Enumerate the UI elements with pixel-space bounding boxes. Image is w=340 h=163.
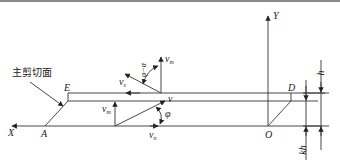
shear-plane-DO: [268, 93, 291, 126]
point-E-label: E: [64, 83, 70, 93]
phi-arc: [156, 107, 161, 124]
point-O-label: O: [265, 130, 272, 140]
y-axis-label: Y: [273, 11, 279, 21]
shear-plane-label: 主剪切面: [12, 68, 52, 78]
vn-label: vn: [149, 130, 156, 141]
kh-label: kh: [298, 145, 308, 154]
x-axis-label: X: [8, 128, 14, 138]
phi-minus-alpha-label: φ−α: [140, 63, 148, 77]
v-label: v: [168, 94, 172, 104]
vm-label: vm: [102, 104, 111, 115]
phi-label: φ: [165, 109, 171, 119]
h-label: h: [316, 71, 326, 76]
shear-plane-AE: [45, 93, 68, 126]
vm-upper-label: vm: [165, 54, 174, 65]
vs-label: vs: [119, 77, 126, 88]
v-arrow: [115, 101, 165, 126]
point-D-label: D: [288, 83, 295, 93]
annotation-arrow: [30, 82, 63, 106]
point-A-label: A: [41, 129, 47, 139]
